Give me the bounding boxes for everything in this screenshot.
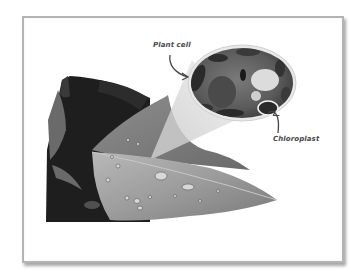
chloroplast-label: Chloroplast <box>273 135 319 143</box>
plant-cell-label: Plant cell <box>153 41 191 49</box>
plant-cell-arrow-icon <box>170 55 187 77</box>
plant-cell-image <box>188 45 296 121</box>
